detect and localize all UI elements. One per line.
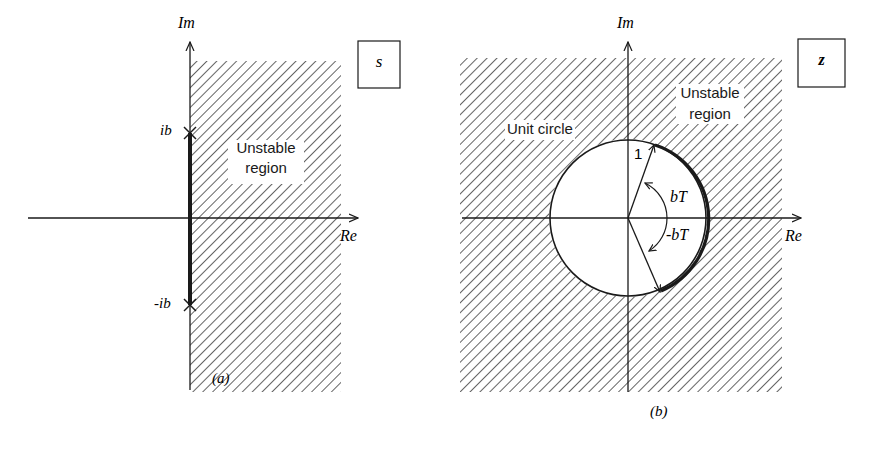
im-axis-label-a: Im xyxy=(178,14,195,32)
unit-circle-label: Unit circle xyxy=(507,120,573,137)
region-line2: region xyxy=(676,103,744,124)
caption-a: (a) xyxy=(212,370,230,387)
z-plane-label: z xyxy=(798,51,845,69)
s-plane-label: s xyxy=(358,52,400,72)
panel-a-s-plane xyxy=(28,41,400,392)
stability-diagram xyxy=(0,0,877,449)
radius-label: 1 xyxy=(634,145,642,162)
unstable-region-hatch xyxy=(190,61,341,392)
re-axis-label-b: Re xyxy=(785,227,802,245)
pole-lower-label: -ib xyxy=(154,295,171,312)
im-axis-label-b: Im xyxy=(617,14,634,32)
unstable-region-label-b: Unstable region xyxy=(676,82,744,124)
region-line1: Unstable xyxy=(676,82,744,103)
angle-pos-label: bT xyxy=(670,188,687,206)
region-line1: Unstable xyxy=(229,138,303,158)
caption-b: (b) xyxy=(650,403,668,420)
pole-upper-label: ib xyxy=(160,122,172,139)
re-axis-label-a: Re xyxy=(340,227,357,245)
unstable-region-label-a: Unstable region xyxy=(229,138,303,178)
region-line2: region xyxy=(229,158,303,178)
angle-neg-label: -bT xyxy=(666,226,688,244)
panel-b-z-plane xyxy=(460,39,845,392)
